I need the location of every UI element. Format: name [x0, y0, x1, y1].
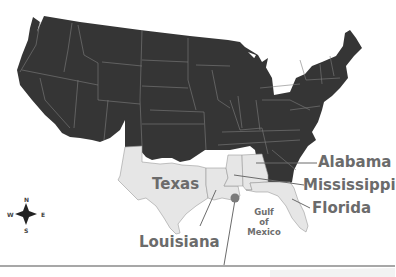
compass-rose-icon — [15, 203, 37, 225]
compass-south: S — [24, 227, 28, 234]
compass-east: E — [41, 211, 45, 218]
gulf-line-1: Gulf — [244, 207, 284, 217]
gulf-line-2: of — [244, 217, 284, 227]
gulf-line-3: Mexico — [244, 227, 284, 237]
label-florida: Florida — [312, 201, 371, 216]
mississippi-shape — [224, 155, 243, 186]
us-mainland — [17, 16, 362, 188]
label-gulf-of-mexico: Gulf of Mexico — [244, 207, 284, 237]
label-mississippi: Mississippi — [303, 178, 396, 193]
location-pin-icon — [231, 194, 240, 203]
label-texas: Texas — [152, 177, 199, 192]
label-alabama: Alabama — [318, 155, 391, 170]
compass-north: N — [24, 196, 29, 203]
label-louisiana: Louisiana — [139, 235, 220, 250]
compass-west: W — [7, 211, 14, 218]
